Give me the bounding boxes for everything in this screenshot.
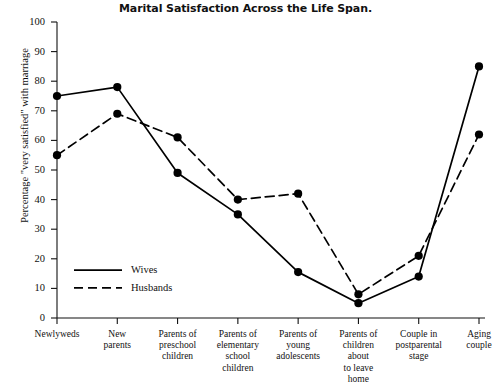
- x-tick-label: Newlyweds: [26, 329, 88, 340]
- legend-item-wives: Wives: [131, 265, 157, 276]
- x-tick-label: Parents ofyoungadolescents: [267, 329, 329, 363]
- y-tick-label: 40: [19, 195, 45, 206]
- x-tick-label: Parents ofelementaryschoolchildren: [207, 329, 269, 374]
- x-tick-label: Agingcouple: [448, 329, 496, 351]
- x-tick-label: Parents ofpreschoolchildren: [147, 329, 209, 363]
- y-tick-label: 0: [19, 313, 45, 324]
- y-tick-label: 20: [19, 254, 45, 265]
- x-tick-label: Couple inpostparentalstage: [388, 329, 450, 363]
- y-tick-label: 50: [19, 165, 45, 176]
- y-tick-label: 80: [19, 76, 45, 87]
- y-tick-label: 90: [19, 47, 45, 58]
- y-tick-label: 100: [19, 17, 45, 28]
- chart-title: Marital Satisfaction Across the Life Spa…: [0, 2, 491, 15]
- x-tick-label: Parents ofchildrenaboutto leavehome: [327, 329, 389, 385]
- x-tick-label: Newparents: [86, 329, 148, 351]
- legend-item-husbands: Husbands: [131, 283, 172, 294]
- y-tick-label: 30: [19, 224, 45, 235]
- y-tick-label: 60: [19, 135, 45, 146]
- y-tick-label: 70: [19, 106, 45, 117]
- y-tick-label: 10: [19, 283, 45, 294]
- legend-sample-lines: [74, 270, 122, 288]
